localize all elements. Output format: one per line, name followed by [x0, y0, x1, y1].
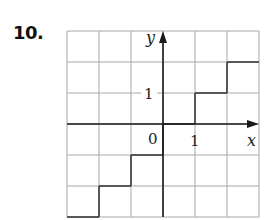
- x-tick-label-1: 1: [190, 132, 200, 150]
- x-axis-label: x: [247, 131, 256, 150]
- y-tick-label-1: 1: [144, 85, 154, 103]
- y-axis-arrow-icon: [159, 31, 167, 43]
- labels: y x 0 1 1: [141, 28, 256, 150]
- x-axis-arrow-icon: [247, 120, 259, 128]
- origin-label: 0: [148, 130, 158, 148]
- axes: [67, 31, 259, 217]
- y-axis-label: y: [145, 28, 156, 47]
- step-function-graph: y x 0 1 1: [0, 0, 267, 220]
